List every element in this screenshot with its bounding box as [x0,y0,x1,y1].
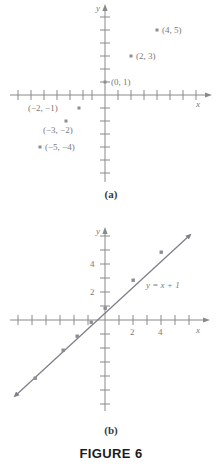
data-point [156,29,159,32]
x-tick-label: 2 [130,327,135,337]
data-point [39,146,42,149]
data-point-label: (−3, −2) [43,125,73,135]
x-tick-label: 4 [158,327,163,337]
data-point [160,251,163,254]
panel-b-line-plot: 2 4 2 4 x y y = x + 1 [0,215,222,430]
panel-a-scatter-plot: x y (4, 5) (2, 3) (0, 1) (−2, −1) (−3, −… [0,0,222,200]
data-point [104,81,107,84]
x-axis-arrow [205,92,212,97]
data-point [62,349,65,352]
data-point-label: (−2, −1) [28,103,58,113]
panel-a-caption: (a) [0,188,222,200]
y-axis-arrow [102,227,107,234]
scatter-plot-svg: x y (4, 5) (2, 3) (0, 1) (−2, −1) (−3, −… [0,0,222,200]
x-axis-label: x [195,99,200,109]
data-point [132,279,135,282]
figure-6: x y (4, 5) (2, 3) (0, 1) (−2, −1) (−3, −… [0,0,222,471]
data-point [65,120,68,123]
data-point-label: (0, 1) [111,77,131,87]
data-point [78,107,81,110]
y-tick-label: 2 [90,287,95,297]
line-plot-svg: 2 4 2 4 x y y = x + 1 [0,215,222,430]
figure-title: FIGURE 6 [0,446,222,461]
y-axis-arrow [102,4,107,11]
data-point [104,307,107,310]
y-axis-label: y [95,3,100,13]
data-point-label: (2, 3) [136,51,156,61]
panel-b-caption: (b) [0,424,222,436]
x-axis-arrow [203,317,210,322]
data-point-label: (4, 5) [162,25,182,35]
data-point [90,321,93,324]
y-axis-label: y [95,226,100,236]
data-point [130,55,133,58]
x-axis-label: x [195,325,200,335]
data-point [76,335,79,338]
line-series [15,235,190,396]
data-point [34,377,37,380]
y-tick-label: 4 [90,259,95,269]
data-point-label: (−5, −4) [45,142,75,152]
equation-label: y = x + 1 [145,280,180,290]
